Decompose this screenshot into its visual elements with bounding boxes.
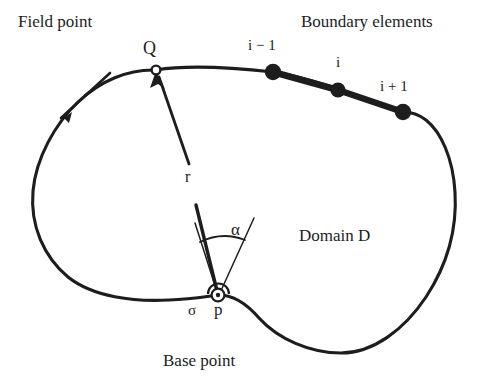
base-point-center-dot <box>216 293 220 297</box>
base-point-group <box>208 284 229 302</box>
base-point-label: Base point <box>163 352 235 369</box>
node-i-dot <box>330 82 345 97</box>
diagram-canvas <box>0 0 497 387</box>
direction-arrow-head <box>54 112 72 125</box>
bem-geometry-figure: Field point Boundary elements Q i − 1 i … <box>0 0 497 387</box>
base-point-marker-label: p <box>214 301 223 318</box>
node-i-plus-1-label: i + 1 <box>380 79 408 94</box>
field-point-marker-label: Q <box>143 39 156 57</box>
radius-label: r <box>185 169 190 185</box>
node-i-minus-1-dot <box>265 64 281 80</box>
radius-vector-upper-segment <box>159 77 189 164</box>
direction-arrow-shaft <box>61 73 110 118</box>
node-i-minus-1-label: i − 1 <box>248 38 276 53</box>
angle-alpha-group <box>195 218 254 295</box>
domain-label: Domain D <box>299 227 370 244</box>
direction-arrow-group <box>54 73 110 125</box>
boundary-elements-label: Boundary elements <box>301 13 433 30</box>
node-i-label: i <box>336 55 340 70</box>
field-point-circle <box>152 66 161 75</box>
radius-vector-lower-segment <box>196 205 218 295</box>
node-i-plus-1-dot <box>395 104 411 120</box>
domain-boundary-curve <box>33 70 456 353</box>
angle-alpha-label: α <box>231 221 240 238</box>
field-point-label: Field point <box>18 13 92 30</box>
sigma-label: σ <box>188 303 196 318</box>
